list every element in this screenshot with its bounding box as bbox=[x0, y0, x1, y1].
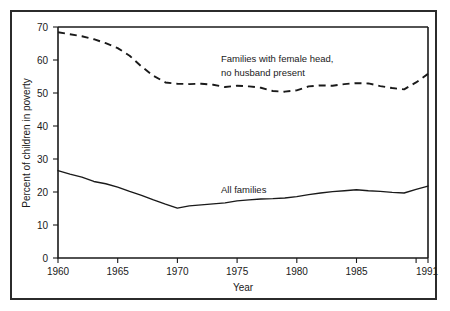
x-axis-title: Year bbox=[233, 282, 254, 293]
x-tick-label-1970: 1970 bbox=[166, 266, 189, 277]
annotation-all-families: All families bbox=[221, 184, 267, 195]
y-tick-label-70: 70 bbox=[37, 22, 49, 33]
chart-figure: 0 10 20 30 40 50 60 70 1960 1965 1970 19… bbox=[0, 0, 450, 311]
y-tick-label-30: 30 bbox=[37, 154, 49, 165]
y-tick-label-10: 10 bbox=[37, 220, 49, 231]
x-tick-label-1991: 1991 bbox=[416, 266, 439, 277]
annotation-female-head-line2: no husband present bbox=[221, 67, 305, 78]
x-tick-label-1980: 1980 bbox=[286, 266, 309, 277]
annotation-female-head-line1: Families with female head, bbox=[221, 53, 333, 64]
y-tick-label-0: 0 bbox=[42, 253, 48, 264]
y-tick-label-60: 60 bbox=[37, 55, 49, 66]
line-chart-plot: 0 10 20 30 40 50 60 70 1960 1965 1970 19… bbox=[0, 0, 450, 311]
y-tick-label-20: 20 bbox=[37, 187, 49, 198]
y-tick-label-50: 50 bbox=[37, 88, 49, 99]
y-tick-label-40: 40 bbox=[37, 121, 49, 132]
annotation-female-head: Families with female head, no husband pr… bbox=[221, 53, 333, 78]
y-axis-tick-labels: 0 10 20 30 40 50 60 70 bbox=[37, 22, 49, 264]
x-axis-tick-labels: 1960 1965 1970 1975 1980 1985 1991 bbox=[47, 266, 439, 277]
x-tick-label-1965: 1965 bbox=[107, 266, 130, 277]
y-axis-title: Percent of children in poverty bbox=[21, 78, 32, 208]
x-tick-label-1975: 1975 bbox=[226, 266, 249, 277]
x-tick-label-1960: 1960 bbox=[47, 266, 70, 277]
x-tick-label-1985: 1985 bbox=[345, 266, 368, 277]
